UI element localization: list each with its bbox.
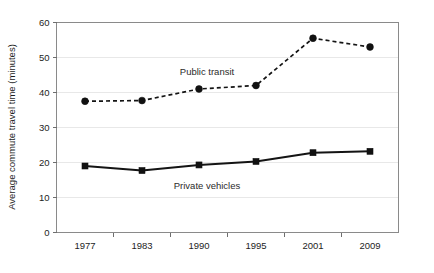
y-tick-label-30: 30 — [39, 122, 50, 133]
data-point-0-2009 — [367, 44, 374, 51]
data-point-1-2009 — [367, 148, 373, 154]
data-point-1-1995 — [253, 158, 259, 164]
y-tick-label-10: 10 — [39, 192, 50, 203]
x-tick-label-2009: 2009 — [359, 240, 380, 251]
commute-travel-time-line-chart: 0102030405060 197719831990199520012009 P… — [0, 0, 434, 273]
chart-figure: 0102030405060 197719831990199520012009 P… — [0, 0, 434, 273]
data-point-0-1995 — [253, 82, 260, 89]
y-tick-label-40: 40 — [39, 87, 50, 98]
x-tick-label-2001: 2001 — [302, 240, 323, 251]
data-point-1-2001 — [310, 150, 316, 156]
x-tick-label-1995: 1995 — [245, 240, 266, 251]
data-point-0-1990 — [196, 86, 203, 93]
y-tick-label-50: 50 — [39, 52, 50, 63]
data-point-0-1977 — [82, 98, 89, 105]
data-point-1-1983 — [139, 168, 145, 174]
data-point-1-1990 — [196, 162, 202, 168]
x-tick-label-1990: 1990 — [188, 240, 209, 251]
data-point-1-1977 — [82, 163, 88, 169]
x-tick-label-1983: 1983 — [131, 240, 152, 251]
y-tick-label-60: 60 — [39, 17, 50, 28]
series-label-public-transit: Public transit — [180, 66, 235, 77]
series-label-private-vehicles: Private vehicles — [174, 180, 241, 191]
x-tick-label-1977: 1977 — [74, 240, 95, 251]
data-point-0-1983 — [139, 97, 146, 104]
y-axis-title: Average commute travel time (minutes) — [6, 44, 17, 210]
y-tick-label-0: 0 — [44, 227, 49, 238]
data-point-0-2001 — [310, 35, 317, 42]
y-tick-label-20: 20 — [39, 157, 50, 168]
